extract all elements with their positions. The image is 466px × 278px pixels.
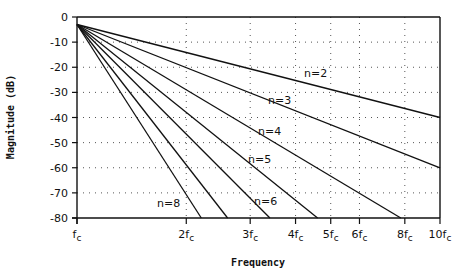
series-line-n-2	[77, 25, 440, 118]
x-tick-label: fc	[73, 228, 82, 243]
series-line-n-8	[77, 25, 201, 219]
y-tick-label: 0	[61, 11, 68, 24]
y-tick-label: -30	[50, 86, 68, 99]
y-tick-label: -10	[50, 36, 68, 49]
series-label-n-5: n=5	[248, 153, 271, 166]
series-line-n-4	[77, 25, 401, 219]
series-label-n-3: n=3	[268, 94, 291, 107]
series-line-n-5	[77, 25, 318, 219]
butterworth-magnitude-chart: 0-10-20-30-40-50-60-70-80 fc2fc3fc4fc5fc…	[0, 0, 466, 278]
x-tick-label: 4fc	[288, 228, 304, 243]
series-label-n-6: n=6	[254, 195, 277, 208]
x-tick-label: 10fc	[429, 228, 452, 243]
y-tick-label: -70	[50, 187, 68, 200]
x-axis-title: Frequency	[231, 257, 285, 268]
y-tick-label: -50	[50, 137, 68, 150]
plot-frame	[72, 17, 440, 224]
series-line-n-7	[77, 25, 228, 219]
x-tick-label: 8fc	[397, 228, 413, 243]
series-label-n-2: n=2	[304, 67, 327, 80]
y-axis-title: Magnitude (dB)	[5, 75, 16, 159]
x-tick-label: 2fc	[178, 228, 194, 243]
x-tick-label: 3fc	[242, 228, 258, 243]
y-tick-label: -60	[50, 162, 68, 175]
x-tick-label: 5fc	[323, 228, 339, 243]
grid-lines	[77, 17, 440, 218]
y-tick-label: -80	[50, 212, 68, 225]
x-tick-label: 6fc	[352, 228, 368, 243]
y-tick-label: -40	[50, 112, 68, 125]
x-axis-ticks: fc2fc3fc4fc5fc6fc8fc10fc	[73, 218, 452, 243]
series-label-n-8: n=8	[157, 197, 180, 210]
series-lines	[77, 25, 440, 219]
series-label-n-4: n=4	[258, 125, 281, 138]
series-line-n-3	[77, 25, 440, 168]
y-tick-label: -20	[50, 61, 68, 74]
y-axis-ticks: 0-10-20-30-40-50-60-70-80	[50, 11, 77, 225]
series-line-n-6	[77, 25, 270, 219]
